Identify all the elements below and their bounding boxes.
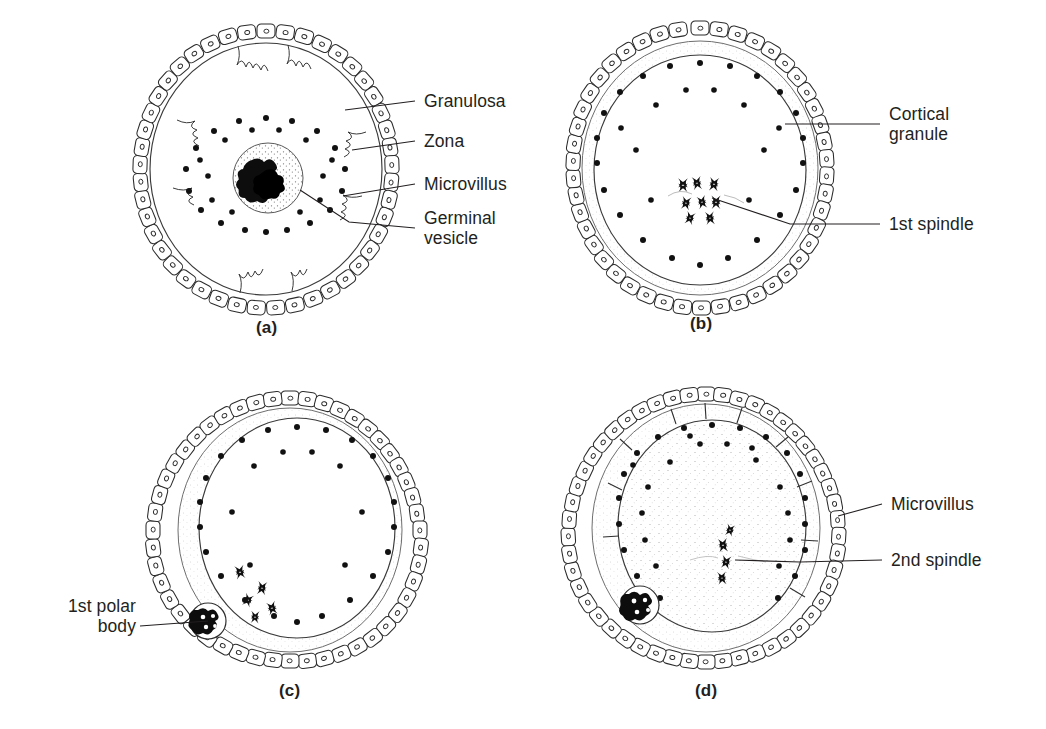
oolemma-b [594, 55, 806, 285]
panel-a [133, 24, 399, 315]
label-germinal-vesicle: Germinal vesicle [424, 208, 496, 248]
label-zona: Zona [424, 131, 464, 151]
label-microvillus-a: Microvillus [424, 174, 507, 194]
panel-c [145, 391, 429, 669]
caption-panel-d: (d) [695, 681, 717, 701]
caption-panel-b: (b) [690, 314, 712, 334]
leader-microvillus-d [838, 504, 882, 516]
label-granulosa: Granulosa [424, 91, 506, 111]
oolemma-c [199, 418, 395, 638]
oocyte-maturation-figure: Granulosa Zona Microvillus Germinal vesi… [0, 0, 1046, 729]
caption-panel-c: (c) [279, 681, 300, 701]
caption-panel-a: (a) [256, 318, 277, 338]
label-microvillus-d: Microvillus [891, 494, 974, 514]
label-first-spindle: 1st spindle [889, 214, 974, 234]
label-cortical-granule: Cortical granule [889, 104, 949, 144]
panel-d [561, 387, 847, 669]
label-second-spindle: 2nd spindle [891, 550, 982, 570]
panel-b [566, 21, 835, 315]
label-first-polar-body: 1st polar body [0, 596, 136, 636]
